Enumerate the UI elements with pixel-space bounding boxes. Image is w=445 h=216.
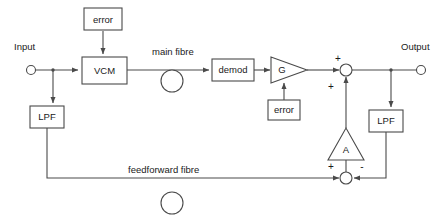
terminal-input-label: Input <box>14 41 35 52</box>
wire-labels-layer: main fibre feedforward fibre <box>128 46 199 175</box>
terminal-input[interactable]: Input <box>14 41 36 75</box>
amplifier-gain-g-label: G <box>278 64 285 75</box>
block-error-bottom[interactable]: error <box>268 100 300 120</box>
terminal-output-port-icon <box>417 66 426 75</box>
main-fibre-coil-icon <box>161 70 183 92</box>
block-error-top[interactable]: error <box>84 8 122 30</box>
summing-node-output-circle <box>340 64 352 76</box>
block-demod-label: demod <box>218 64 247 75</box>
summing-node-feedback-sign-left: + <box>328 161 334 172</box>
summing-node-output[interactable]: + + <box>328 53 352 92</box>
summing-node-output-sign-left: + <box>335 53 341 64</box>
feedforward-fibre-label: feedforward fibre <box>128 164 199 175</box>
block-lpf-right[interactable]: LPF <box>369 110 403 132</box>
summing-node-output-sign-bottom: + <box>328 81 334 92</box>
block-lpf-right-label: LPF <box>377 115 395 126</box>
amplifier-gain-g[interactable]: G <box>271 57 307 83</box>
block-error-bottom-label: error <box>274 104 294 115</box>
summing-node-feedback-sign-right: - <box>360 161 363 172</box>
junction-dot-input-tap <box>51 68 54 71</box>
block-lpf-left-label: LPF <box>38 111 56 122</box>
terminal-output-label: Output <box>401 41 430 52</box>
junction-dot-output-tap <box>389 68 392 71</box>
amplifier-gain-g-triangle <box>271 57 307 83</box>
block-demod[interactable]: demod <box>212 59 254 81</box>
fibre-coils-layer <box>161 70 183 214</box>
amplifier-gain-a-label: A <box>343 144 350 155</box>
feedforward-fibre-coil-icon <box>161 192 183 214</box>
block-lpf-left[interactable]: LPF <box>30 106 64 128</box>
block-vcm[interactable]: VCM <box>82 57 127 84</box>
block-error-top-label: error <box>93 14 113 25</box>
circuit-diagram: error VCM demod error LPF LPF <box>0 0 445 216</box>
terminal-output[interactable]: Output <box>401 41 430 75</box>
terminal-input-port-icon <box>27 66 36 75</box>
diagram-canvas: error VCM demod error LPF LPF <box>0 0 445 216</box>
summing-node-feedback-circle <box>340 172 352 184</box>
amplifier-gain-a[interactable]: A <box>328 128 364 160</box>
main-fibre-label: main fibre <box>152 46 194 57</box>
block-vcm-label: VCM <box>94 65 115 76</box>
